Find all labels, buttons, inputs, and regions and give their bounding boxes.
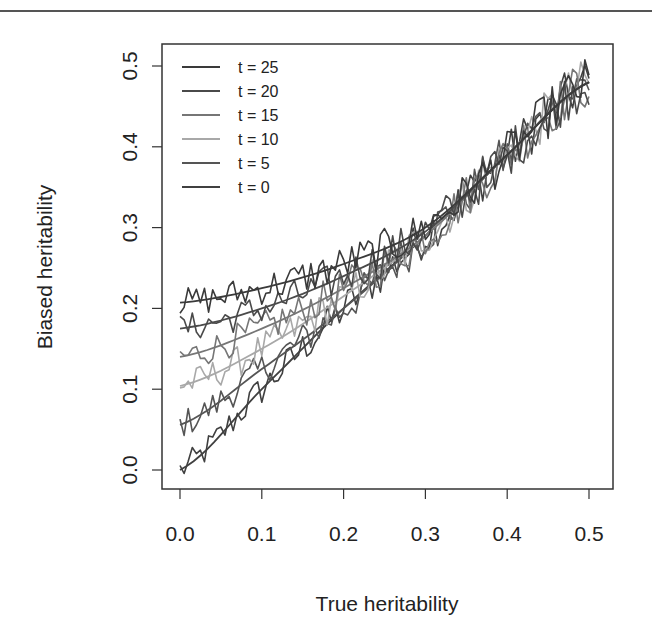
legend-label: t = 20 [238, 83, 279, 100]
chart: 0.00.10.20.30.40.5 0.00.10.20.30.40.5 Tr… [0, 0, 652, 644]
series-t0 [180, 65, 589, 473]
y-tick-label: 0.4 [118, 132, 141, 162]
legend-item: t = 0 [182, 179, 270, 196]
legend-label: t = 10 [238, 131, 279, 148]
legend-label: t = 25 [238, 59, 279, 76]
x-tick-label: 0.1 [247, 522, 276, 545]
legend-label: t = 0 [238, 179, 270, 196]
legend-label: t = 5 [238, 155, 270, 172]
legend: t = 25t = 20t = 15t = 10t = 5t = 0 [182, 59, 279, 196]
y-axis-title: Biased heritability [33, 184, 56, 349]
y-tick-label: 0.3 [118, 213, 141, 242]
y-tick-label: 0.2 [118, 294, 141, 323]
x-tick-label: 0.3 [411, 522, 440, 545]
y-tick-label: 0.1 [118, 375, 141, 404]
x-tick-label: 0.4 [493, 522, 523, 545]
x-tick-label: 0.2 [329, 522, 358, 545]
legend-item: t = 5 [182, 155, 270, 172]
legend-item: t = 10 [182, 131, 279, 148]
y-axis: 0.00.10.20.30.40.5 [118, 51, 162, 484]
x-axis: 0.00.10.20.30.40.5 [165, 489, 603, 545]
legend-item: t = 25 [182, 59, 279, 76]
legend-item: t = 20 [182, 83, 279, 100]
y-tick-label: 0.0 [118, 455, 141, 484]
legend-item: t = 15 [182, 107, 279, 124]
x-axis-title: True heritability [316, 592, 459, 615]
x-tick-label: 0.5 [574, 522, 603, 545]
y-tick-label: 0.5 [118, 51, 141, 80]
x-tick-label: 0.0 [165, 522, 194, 545]
legend-label: t = 15 [238, 107, 279, 124]
